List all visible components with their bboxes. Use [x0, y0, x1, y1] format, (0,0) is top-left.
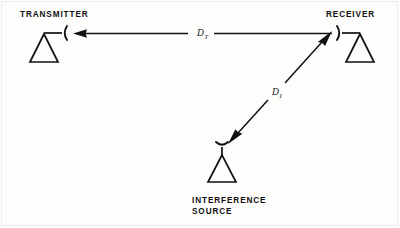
- interference-dish-icon: [216, 142, 228, 145]
- interference-source-antenna: [208, 142, 236, 182]
- transmitter-label: TRANSMITTER: [20, 10, 89, 19]
- receiver-label: RECEIVER: [326, 10, 375, 19]
- transmitter-dish-icon: [65, 26, 67, 40]
- receiver-tower-triangle: [346, 34, 374, 62]
- interference-path-line-upper: [285, 42, 322, 83]
- receiver-antenna: [337, 26, 374, 62]
- interference-tower-triangle: [208, 155, 236, 182]
- interference-path-arrow: [228, 31, 332, 144]
- receiver-dish-icon: [337, 26, 339, 40]
- interference-distance-label-group: D I: [271, 87, 283, 99]
- transmission-distance-label-group: D T: [196, 28, 209, 40]
- transmission-distance-label: D: [196, 28, 204, 38]
- diagram-canvas: TRANSMITTER RECEIVER INTERFERENCE SOURCE: [0, 0, 400, 228]
- transmitter-tower-triangle: [30, 34, 58, 62]
- transmission-path-arrowhead: [73, 29, 87, 37]
- antenna-geometry-diagram: TRANSMITTER RECEIVER INTERFERENCE SOURCE: [0, 0, 400, 228]
- interference-source-label-line2: SOURCE: [192, 207, 232, 216]
- transmitter-antenna: [30, 26, 67, 62]
- transmission-distance-subscript: T: [205, 33, 209, 40]
- interference-distance-subscript: I: [279, 92, 283, 99]
- interference-source-label-line1: INTERFERENCE: [192, 196, 267, 205]
- interference-distance-label: D: [271, 87, 279, 97]
- interference-path-line-lower: [238, 100, 268, 133]
